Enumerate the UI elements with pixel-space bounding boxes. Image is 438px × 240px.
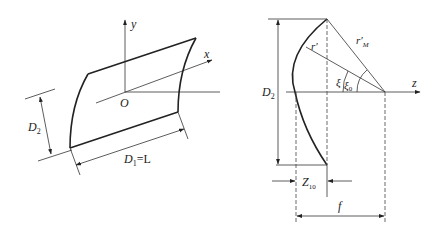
origin-label: O <box>120 96 129 110</box>
f-label: f <box>338 199 343 213</box>
r-max-label: r′M <box>356 34 370 49</box>
r-label: r′ <box>311 40 318 52</box>
xi0-label: ξ0 <box>344 79 353 93</box>
d1-ext-left <box>70 148 80 175</box>
front-curve <box>70 74 88 148</box>
xi-label: ξ <box>336 76 341 89</box>
z-axis-right-label: z <box>411 76 417 90</box>
d1-label: D1=L <box>123 152 151 168</box>
d2-label-right: D2 <box>261 85 275 101</box>
y-axis-label: y <box>130 17 137 31</box>
top-edge <box>88 38 196 74</box>
d2-dimension-line <box>40 97 51 154</box>
d1-ext-right <box>178 112 188 139</box>
right-figure: z D2 r′ r′M ξ ξ0 Z10 <box>261 19 420 222</box>
z10-label: Z10 <box>302 175 316 191</box>
x-axis-label: x <box>203 47 210 61</box>
bottom-edge <box>70 112 178 148</box>
back-curve <box>178 38 196 112</box>
d2-ext-bottom <box>38 150 72 161</box>
left-figure: y x O D2 D1=L <box>25 17 220 175</box>
diagram-canvas: y x O D2 D1=L z <box>0 0 438 240</box>
x-axis <box>96 60 212 103</box>
d2-label: D2 <box>27 120 41 136</box>
